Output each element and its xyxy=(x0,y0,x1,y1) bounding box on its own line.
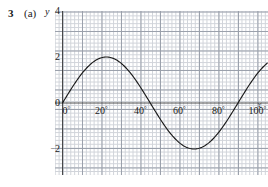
x-tick-value: 20 xyxy=(95,105,105,116)
x-axis-tick-labels: 0°20°40°60°80°100° xyxy=(0,0,268,187)
x-tick-label: 80° xyxy=(212,106,225,116)
degree-symbol: ° xyxy=(68,105,71,113)
x-tick-value: 60 xyxy=(173,105,183,116)
x-tick-label: 20° xyxy=(95,106,108,116)
x-tick-label: 0° xyxy=(63,106,71,116)
x-tick-label: 40° xyxy=(134,106,147,116)
degree-symbol: ° xyxy=(144,105,147,113)
degree-symbol: ° xyxy=(222,105,225,113)
x-tick-value: 40 xyxy=(134,105,144,116)
x-tick-label: 60° xyxy=(173,106,186,116)
degree-symbol: ° xyxy=(183,105,186,113)
degree-symbol: ° xyxy=(105,105,108,113)
x-tick-label: 100° xyxy=(249,106,267,116)
x-tick-value: 80 xyxy=(212,105,222,116)
x-tick-value: 100 xyxy=(249,105,264,116)
degree-symbol: ° xyxy=(264,105,267,113)
graph-figure: 3 (a) y x 420–2–4 0°20°40°60°80°100° xyxy=(0,0,268,187)
